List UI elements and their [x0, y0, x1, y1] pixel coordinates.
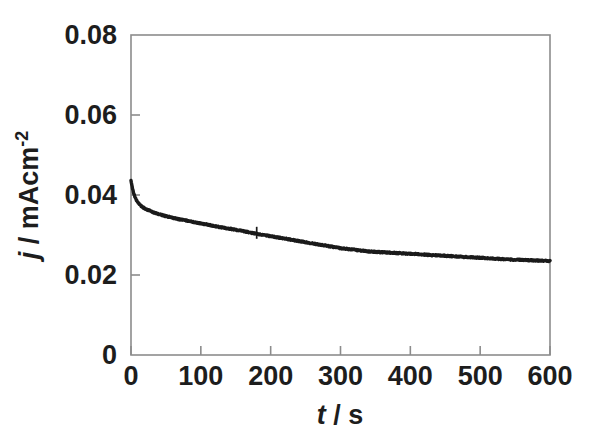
figure-background — [0, 0, 594, 431]
x-tick-label: 500 — [458, 361, 503, 391]
y-tick-label: 0.06 — [64, 100, 117, 130]
x-axis-title: t / s — [317, 400, 364, 430]
y-axis-title: j / mAcm-2 — [12, 131, 44, 263]
x-tick-label: 200 — [248, 361, 293, 391]
x-axis-title-units: / s — [326, 400, 364, 430]
chronoamperometry-plot: 0100200300400500600 00.020.040.060.08 t … — [0, 0, 594, 431]
y-tick-label: 0 — [102, 340, 117, 370]
y-axis-title-exponent: -2 — [12, 131, 32, 147]
x-tick-label: 100 — [178, 361, 223, 391]
y-tick-label: 0.08 — [64, 20, 117, 50]
x-tick-label: 300 — [318, 361, 363, 391]
x-tick-label: 0 — [123, 361, 138, 391]
chart-figure: 0100200300400500600 00.020.040.060.08 t … — [0, 0, 594, 431]
y-tick-label: 0.02 — [64, 260, 117, 290]
x-tick-label: 600 — [527, 361, 572, 391]
y-tick-label: 0.04 — [64, 180, 117, 210]
y-axis-title-text: j / mAcm-2 — [12, 131, 44, 263]
y-axis-title-units: / mAcm — [14, 147, 44, 252]
x-tick-label: 400 — [388, 361, 433, 391]
